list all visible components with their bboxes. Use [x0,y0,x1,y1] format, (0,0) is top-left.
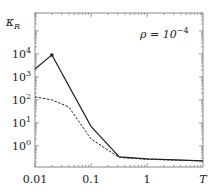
plot-frame [35,13,203,167]
series-group [34,53,203,161]
tick-labels: 0.010.11T100101102103104 [12,46,208,186]
y-tick-label: 103 [12,69,31,84]
rho-annotation: ρ = 10−4 [139,26,188,41]
y-tick-label: 100 [12,138,31,153]
ticks [35,13,203,167]
y-tick-label: 102 [12,92,31,107]
x-tick-label: 0.01 [23,173,48,186]
y-tick-label: 104 [12,46,31,61]
x-tick-label: 1 [144,173,151,186]
chart: 0.010.11T100101102103104 κR ρ = 10−4 [0,0,211,194]
y-tick-label: 101 [12,115,31,130]
y-axis-label: κR [5,15,20,31]
series-line-solid [35,55,203,161]
x-tick-label: T [199,173,208,186]
data-point-solid [50,53,54,57]
series-line-dashed [35,97,203,161]
data-point-dashed [68,106,69,107]
x-tick-label: 0.1 [82,173,100,186]
